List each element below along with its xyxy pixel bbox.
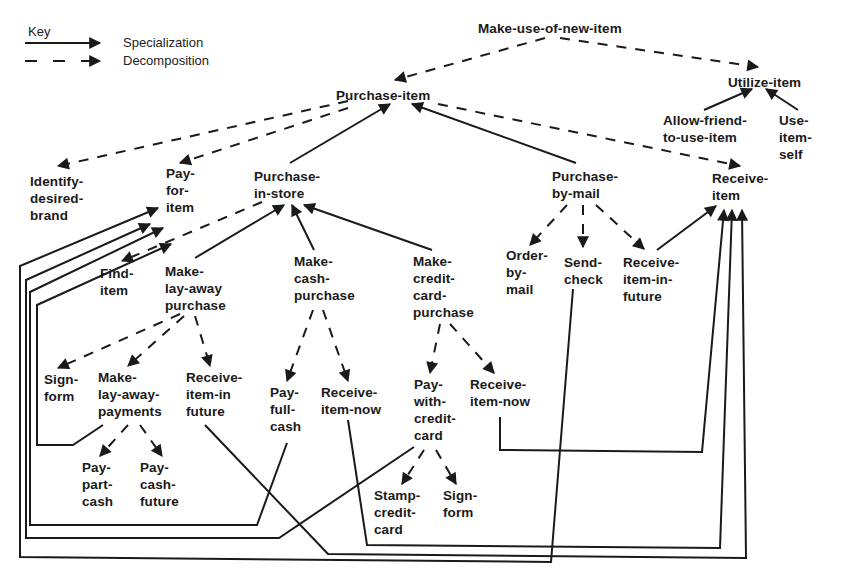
edge-decomposition-make-credit-card-purchase-to-receive-item-now-credit [450,324,494,373]
node-receive-item-in-future-layaway: Receive- item-in future [186,369,242,420]
edge-specialization-make-credit-card-purchase-to-purchase-in-store [304,205,432,250]
key-title: Key [28,24,50,39]
node-make-use-of-new-item: Make-use-of-new-item [478,20,622,37]
key-specialization-label: Specialization [123,35,203,50]
edge-decomposition-pay-with-credit-card-to-stamp-credit-card [402,450,424,484]
node-purchase-by-mail: Purchase- by-mail [552,168,618,202]
node-receive-item: Receive- item [712,170,768,204]
node-receive-item-now-cash: Receive- item-now [321,384,381,418]
edge-specialization-purchase-in-store-to-purchase-item [290,104,390,163]
node-purchase-item: Purchase-item [336,87,430,104]
edge-specialization-use-item-self-to-utilize-item [766,89,798,110]
node-stamp-credit-card: Stamp- credit- card [374,487,420,538]
edge-specialization-purchase-by-mail-to-purchase-item [412,104,576,163]
edge-decomposition-purchase-by-mail-to-receive-item-in-future-mail [596,205,644,249]
node-send-check: Send- check [564,254,603,288]
node-allow-friend-to-use-item: Allow-friend- to-use-item [663,112,747,146]
edge-decomposition-pay-with-credit-card-to-sign-form-credit [436,450,456,484]
key-legend-lines [25,43,100,61]
edge-decomposition-make-lay-away-purchase-to-make-lay-away-payments [128,316,184,366]
edge-decomposition-make-use-of-new-item-to-utilize-item [560,38,758,67]
node-pay-for-item: Pay- for- item [166,165,195,216]
node-pay-cash-future: Pay- cash- future [140,459,179,510]
edge-decomposition-make-credit-card-purchase-to-pay-with-credit-card [430,324,440,373]
edge-decomposition-purchase-by-mail-to-order-by-mail [530,205,567,245]
edge-decomposition-make-use-of-new-item-to-purchase-item [395,38,545,80]
edge-specialization-allow-friend-to-use-item-to-utilize-item [704,89,752,110]
edge-decomposition-make-cash-purchase-to-pay-full-cash [287,310,313,381]
node-receive-item-now-credit: Receive- item-now [470,376,530,410]
node-sign-form-credit: Sign- form [443,487,477,521]
node-make-credit-card-purchase: Make- credit- card- purchase [413,253,474,321]
node-pay-full-cash: Pay- full- cash [270,384,301,435]
edge-specialization-make-cash-purchase-to-purchase-in-store [292,205,314,250]
edge-decomposition-make-lay-away-purchase-to-sign-form-layaway [58,314,180,368]
node-pay-part-cash: Pay- part- cash [82,459,113,510]
edge-specialization-receive-item-in-future-mail-to-receive-item [657,206,716,250]
node-make-lay-away-purchase: Make- lay-away purchase [165,263,226,314]
node-find-item: Find- item [100,265,134,299]
edge-decomposition-make-lay-away-payments-to-pay-part-cash [100,425,128,456]
node-sign-form-layaway: Sign- form [44,371,78,405]
edge-decomposition-make-lay-away-payments-to-pay-cash-future [140,425,162,456]
node-pay-with-credit-card: Pay- with- credit- card [414,376,456,444]
edge-specialization-make-lay-away-purchase-to-purchase-in-store [195,205,284,258]
edge-decomposition-make-lay-away-purchase-to-receive-item-in-future-layaway [195,316,210,366]
node-receive-item-in-future-mail: Receive- item-in- future [623,254,679,305]
node-make-lay-away-payments: Make- lay-away- payments [98,369,162,420]
node-make-cash-purchase: Make- cash- purchase [294,253,355,304]
node-utilize-item: Utilize-item [728,74,801,91]
edge-decomposition-purchase-item-to-pay-for-item [180,108,348,163]
node-purchase-in-store: Purchase- in-store [254,168,320,202]
edge-decomposition-make-cash-purchase-to-receive-item-now-cash [323,310,348,381]
key-decomposition-label: Decomposition [123,53,209,68]
node-order-by-mail: Order- by- mail [506,247,548,298]
node-use-item-self: Use- item- self [779,112,812,163]
node-identify-desired-brand: Identify- desired- brand [30,173,83,224]
